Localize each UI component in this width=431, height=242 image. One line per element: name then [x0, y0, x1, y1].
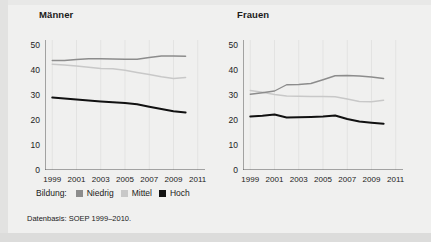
x-tick-label: 2011: [183, 175, 213, 184]
y-tick-label: 30: [22, 90, 40, 100]
y-tick-label: 0: [22, 165, 40, 175]
y-tick-label: 10: [220, 140, 238, 150]
plot-area-maenner: 010203040501999200120032005200720092011: [45, 40, 205, 170]
panel-title-frauen: Frauen: [237, 9, 269, 20]
plot-area-frauen: 010203040501999200120032005200720092011: [243, 40, 403, 170]
source-note: Datenbasis: SOEP 1999–2010.: [27, 214, 131, 223]
legend-label-hoch: Hoch: [170, 188, 190, 198]
y-tick-label: 10: [22, 140, 40, 150]
page-edge-bottom: [0, 233, 431, 242]
chart-svg: [243, 40, 403, 170]
series-line-niedrig: [250, 76, 383, 95]
y-tick-label: 0: [220, 165, 238, 175]
y-tick-label: 20: [22, 115, 40, 125]
legend-title: Bildung:: [36, 188, 67, 198]
series-line-hoch: [52, 98, 185, 113]
legend-item-hoch: Hoch: [159, 188, 190, 198]
y-tick-label: 50: [220, 40, 238, 50]
x-tick-label: 2011: [381, 175, 411, 184]
legend-swatch-niedrig: [76, 190, 83, 197]
y-tick-label: 40: [22, 65, 40, 75]
legend-item-niedrig: Niedrig: [76, 188, 114, 198]
legend-label-niedrig: Niedrig: [87, 188, 114, 198]
y-tick-label: 30: [220, 90, 238, 100]
legend: Bildung: Niedrig Mittel Hoch: [36, 188, 190, 198]
chart-panel-maenner: Männer 010203040501999200120032005200720…: [14, 0, 219, 185]
y-tick-label: 40: [220, 65, 238, 75]
y-tick-label: 50: [22, 40, 40, 50]
y-tick-label: 20: [220, 115, 238, 125]
legend-swatch-mittel: [121, 190, 128, 197]
legend-swatch-hoch: [159, 190, 166, 197]
series-line-mittel: [52, 64, 185, 78]
chart-panels: Männer 010203040501999200120032005200720…: [0, 0, 431, 185]
legend-label-mittel: Mittel: [132, 188, 152, 198]
legend-item-mittel: Mittel: [121, 188, 152, 198]
figure-page: Männer 010203040501999200120032005200720…: [0, 0, 431, 242]
series-line-hoch: [250, 115, 383, 124]
chart-svg: [45, 40, 205, 170]
panel-title-maenner: Männer: [39, 9, 73, 20]
series-line-niedrig: [52, 56, 185, 61]
chart-panel-frauen: Frauen 010203040501999200120032005200720…: [219, 0, 424, 185]
